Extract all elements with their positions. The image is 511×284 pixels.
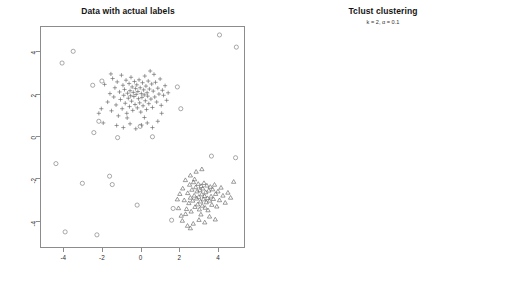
y-tick-label: -2: [31, 178, 38, 184]
marker-plus: [157, 92, 161, 96]
marker-plus: [121, 83, 125, 87]
marker-plus: [145, 91, 149, 95]
marker-circle-outlier: [95, 233, 99, 237]
marker-triangle: [223, 201, 227, 205]
marker-triangle: [184, 207, 188, 211]
marker-circle-outlier: [116, 136, 120, 140]
x-tick-label: -2: [99, 254, 105, 261]
marker-plus: [156, 119, 160, 123]
x-tick-label: 0: [139, 254, 143, 261]
marker-circle-outlier: [233, 156, 237, 160]
marker-circle-outlier: [54, 162, 58, 166]
marker-circle-outlier: [175, 85, 179, 89]
panel-data-with-actual-labels: Data with actual labels -4-2024 -4-2024: [0, 0, 256, 284]
marker-plus: [115, 80, 119, 84]
marker-circle-outlier: [209, 154, 213, 158]
marker-triangle: [219, 185, 223, 189]
marker-circle-outlier: [80, 181, 84, 185]
marker-triangle: [191, 221, 195, 225]
marker-triangle: [207, 188, 211, 192]
marker-plus: [131, 108, 135, 112]
marker-plus: [109, 109, 113, 113]
marker-plus: [152, 72, 156, 76]
marker-plus: [142, 115, 146, 119]
marker-plus: [133, 102, 137, 106]
marker-plus: [144, 107, 148, 111]
x-axis-left: -4-2024: [40, 248, 245, 266]
marker-triangle: [175, 197, 179, 201]
marker-plus: [135, 106, 139, 110]
plot-area-left: [40, 26, 245, 248]
x-tick-mark: [102, 248, 103, 252]
marker-plus: [121, 125, 125, 129]
marker-triangle: [180, 219, 184, 223]
y-tick-label: 2: [31, 94, 38, 98]
marker-circle-outlier: [170, 218, 174, 222]
marker-plus: [142, 88, 146, 92]
y-tick-label: 4: [31, 51, 38, 55]
marker-plus: [99, 107, 103, 111]
marker-triangle: [202, 181, 206, 185]
marker-circle-outlier: [135, 203, 139, 207]
marker-plus: [132, 79, 136, 83]
marker-plus: [163, 84, 167, 88]
marker-plus: [153, 80, 157, 84]
marker-plus: [155, 100, 159, 104]
marker-triangle: [213, 217, 217, 221]
marker-plus: [97, 111, 101, 115]
marker-plus: [124, 78, 128, 82]
marker-triangle: [209, 194, 213, 198]
marker-plus: [119, 73, 123, 77]
marker-plus: [114, 103, 118, 107]
marker-plus: [156, 86, 160, 90]
marker-plus: [132, 94, 136, 98]
marker-plus: [125, 111, 129, 115]
marker-triangle: [226, 190, 230, 194]
marker-plus: [143, 99, 147, 103]
x-tick-label: -4: [60, 254, 66, 261]
marker-plus: [134, 127, 138, 131]
marker-plus: [141, 104, 145, 108]
series-cluster-2-triangle: [175, 167, 236, 230]
marker-triangle: [190, 188, 194, 192]
marker-triangle: [187, 183, 191, 187]
marker-triangle: [188, 226, 192, 230]
marker-triangle: [188, 173, 192, 177]
scatter-canvas-left: [41, 27, 244, 247]
marker-triangle: [187, 201, 191, 205]
marker-triangle: [176, 206, 180, 210]
marker-triangle: [185, 224, 189, 228]
marker-triangle: [199, 212, 203, 216]
marker-triangle: [181, 186, 185, 190]
marker-triangle: [201, 186, 205, 190]
marker-triangle: [232, 180, 236, 184]
marker-plus: [120, 107, 124, 111]
marker-circle-outlier: [217, 33, 221, 37]
marker-plus: [127, 81, 131, 85]
marker-plus: [150, 125, 154, 129]
marker-triangle: [192, 193, 196, 197]
marker-triangle: [200, 167, 204, 171]
marker-circle-outlier: [110, 182, 114, 186]
marker-triangle: [214, 192, 218, 196]
marker-plus: [153, 95, 157, 99]
panel-subtitle-right: k = 2, α = 0.1: [255, 19, 511, 25]
marker-plus: [122, 93, 126, 97]
marker-plus: [137, 78, 141, 82]
marker-plus: [147, 102, 151, 106]
marker-plus: [115, 123, 119, 127]
marker-triangle: [189, 209, 193, 213]
marker-plus: [111, 76, 115, 80]
marker-plus: [101, 121, 105, 125]
marker-circle-outlier: [71, 49, 75, 53]
marker-triangle: [194, 170, 198, 174]
marker-plus: [150, 82, 154, 86]
marker-triangle: [192, 177, 196, 181]
marker-plus: [145, 121, 149, 125]
marker-triangle: [193, 205, 197, 209]
marker-triangle: [183, 212, 187, 216]
marker-triangle: [203, 220, 207, 224]
marker-plus: [159, 103, 163, 107]
marker-triangle: [196, 182, 200, 186]
marker-plus: [138, 86, 142, 90]
